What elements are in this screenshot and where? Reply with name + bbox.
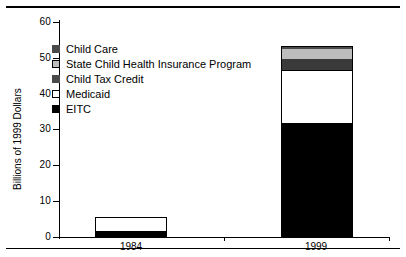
y-tick-label-40: 40: [17, 89, 51, 99]
bar-1999-segment-eitc: [281, 123, 353, 237]
x-axis-label-1999: 1999: [271, 241, 361, 253]
bar-1984: [95, 217, 167, 237]
y-tick-label-20: 20: [17, 160, 51, 170]
white-swatch-icon: [52, 90, 60, 98]
chart-figure: Billions of 1999 Dollars 60 50 40 30 20 …: [0, 0, 406, 257]
bar-1984-segment-eitc: [95, 231, 167, 237]
y-tick-30: [53, 129, 59, 130]
legend-label-eitc: EITC: [66, 103, 91, 115]
y-tick-20: [53, 165, 59, 166]
legend-item-eitc: EITC: [52, 102, 251, 116]
y-tick-60: [53, 22, 59, 23]
legend-item-schip: State Child Health Insurance Program: [52, 57, 251, 71]
x-tick-mid: [224, 237, 225, 241]
y-axis-title: Billions of 1999 Dollars: [13, 88, 23, 190]
y-tick-label-50: 50: [17, 53, 51, 63]
legend-label-medicaid: Medicaid: [66, 88, 110, 100]
black-swatch-icon: [52, 105, 60, 113]
chart-legend: Child Care State Child Health Insurance …: [52, 42, 251, 117]
light-gray-swatch-icon: [52, 60, 60, 68]
legend-label-schip: State Child Health Insurance Program: [66, 58, 251, 70]
legend-item-medicaid: Medicaid: [52, 87, 251, 101]
legend-item-child-care: Child Care: [52, 42, 251, 56]
bar-1984-segment-medicaid: [95, 217, 167, 232]
dark-gray-swatch-icon: [52, 45, 60, 53]
x-tick-end: [389, 237, 390, 241]
bar-1999-segment-medicaid: [281, 70, 353, 124]
y-tick-0: [53, 237, 59, 238]
bar-1999: [281, 46, 353, 237]
dark-gray-swatch-icon: [52, 75, 60, 83]
legend-label-child-care: Child Care: [66, 43, 118, 55]
legend-item-child-tax-credit: Child Tax Credit: [52, 72, 251, 86]
bar-1999-segment-child-tax-credit: [281, 59, 353, 70]
y-tick-10: [53, 201, 59, 202]
top-divider-rule: [6, 6, 400, 8]
y-tick-label-60: 60: [17, 17, 51, 27]
x-axis-label-1984: 1984: [86, 241, 176, 253]
y-tick-label-10: 10: [17, 196, 51, 206]
bar-1999-segment-schip: [281, 49, 353, 59]
y-tick-label-0: 0: [17, 232, 51, 242]
legend-label-child-tax-credit: Child Tax Credit: [66, 73, 143, 85]
y-tick-label-30: 30: [17, 124, 51, 134]
